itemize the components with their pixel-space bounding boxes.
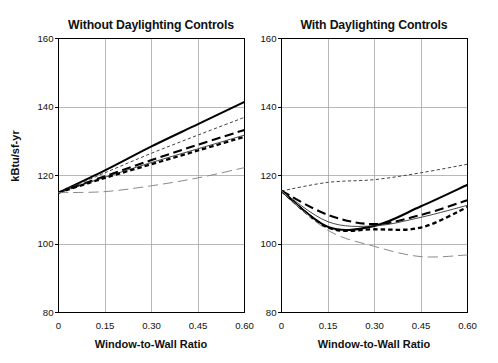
- plot-area-left: [0, 0, 498, 363]
- panel-right: [278, 39, 468, 313]
- figure-container: Without Daylighting Controls With Daylig…: [0, 0, 498, 363]
- panel-left: [55, 39, 245, 313]
